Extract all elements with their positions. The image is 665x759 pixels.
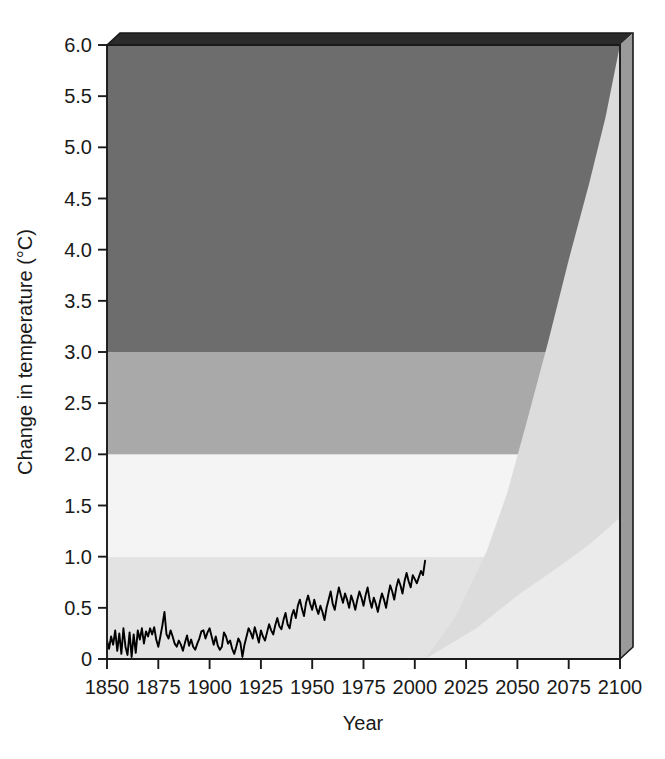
x-tick-label: 1975 (341, 676, 386, 698)
x-tick-label: 1925 (239, 676, 284, 698)
y-tick-label: 4.5 (64, 188, 92, 210)
chart-canvas: 00.51.01.52.02.53.03.54.04.55.05.56.0 18… (0, 0, 665, 759)
y-axis-title: Change in temperature (°C) (14, 229, 36, 475)
x-axis-title: Year (343, 712, 384, 734)
y-axis-ticks (98, 45, 107, 659)
x-tick-label: 2075 (546, 676, 591, 698)
x-tick-label: 2100 (598, 676, 643, 698)
x-tick-label: 2000 (393, 676, 438, 698)
x-tick-label: 1875 (136, 676, 181, 698)
bevel-top-face (107, 33, 633, 45)
band-3-6-degrees (107, 45, 620, 352)
x-tick-label: 2025 (444, 676, 489, 698)
shaded-bands-group (107, 45, 620, 659)
y-tick-label: 3.5 (64, 290, 92, 312)
y-tick-label: 0 (81, 648, 92, 670)
y-tick-label: 0.5 (64, 597, 92, 619)
y-tick-label: 2.0 (64, 443, 92, 465)
x-tick-label: 2050 (495, 676, 540, 698)
x-axis-tick-labels: 1850187519001925195019752000202520502075… (85, 676, 643, 698)
bevel-right-face (620, 33, 633, 659)
y-tick-label: 5.0 (64, 136, 92, 158)
x-tick-label: 1950 (290, 676, 335, 698)
y-tick-label: 4.0 (64, 239, 92, 261)
x-axis-ticks (107, 659, 620, 669)
y-tick-label: 5.5 (64, 85, 92, 107)
x-tick-label: 1850 (85, 676, 130, 698)
climate-projection-figure: 00.51.01.52.02.53.03.54.04.55.05.56.0 18… (0, 0, 665, 759)
x-tick-label: 1900 (187, 676, 232, 698)
y-tick-label: 3.0 (64, 341, 92, 363)
y-axis-tick-labels: 00.51.01.52.02.53.03.54.04.55.05.56.0 (64, 34, 92, 670)
y-tick-label: 1.0 (64, 546, 92, 568)
y-tick-label: 1.5 (64, 495, 92, 517)
y-tick-label: 2.5 (64, 392, 92, 414)
y-tick-label: 6.0 (64, 34, 92, 56)
